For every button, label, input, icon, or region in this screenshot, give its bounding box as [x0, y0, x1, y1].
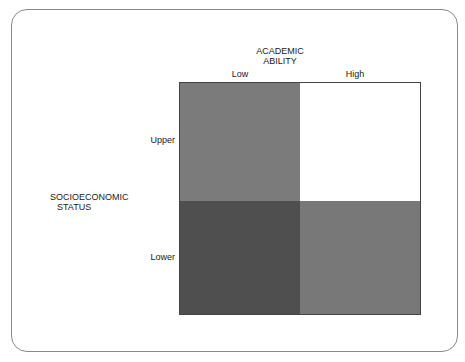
column-label-high: High	[335, 69, 375, 79]
column-axis-title-line1: ACADEMIC	[256, 46, 304, 56]
cell-lower-low	[180, 201, 300, 314]
column-axis-title: ACADEMIC ABILITY	[240, 46, 320, 66]
cell-lower-high	[300, 201, 420, 314]
row-axis-title-line1: SOCIOECONOMIC	[50, 192, 129, 202]
row-axis-title: SOCIOECONOMIC STATUS	[50, 192, 129, 212]
row-label-upper: Upper	[130, 135, 175, 145]
column-label-low: Low	[225, 69, 255, 79]
quadrant-grid	[179, 82, 421, 315]
cell-upper-low	[180, 83, 300, 201]
cell-upper-high	[300, 83, 420, 201]
row-label-lower: Lower	[130, 252, 175, 262]
row-axis-title-line2: STATUS	[50, 202, 129, 212]
column-axis-title-line2: ABILITY	[263, 56, 297, 66]
